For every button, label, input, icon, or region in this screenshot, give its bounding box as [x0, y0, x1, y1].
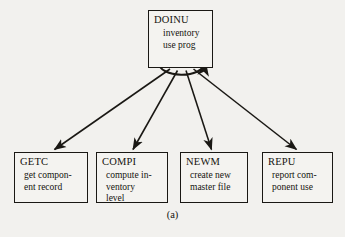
connector-call-compi	[133, 71, 178, 150]
module-description-compi: compute in- ventory level	[97, 168, 167, 205]
module-name-doinu: DOINU	[149, 14, 212, 26]
module-description-repu: report com- ponent use	[263, 168, 332, 193]
connector-call-newm	[186, 71, 212, 150]
module-name-repu: REPU	[263, 156, 332, 168]
module-description-doinu: inventory use prog	[149, 26, 212, 51]
module-name-getc: GETC	[15, 156, 87, 168]
connector-call-getc	[55, 69, 171, 150]
structure-chart-figure: DOINU inventory use prog GETC get compon…	[0, 0, 345, 237]
module-description-getc: get compon- ent record	[15, 168, 87, 193]
module-box-compi[interactable]: COMPI compute in- ventory level	[96, 152, 168, 203]
figure-caption: (a)	[0, 208, 345, 221]
module-box-newm[interactable]: NEWM create new master file	[180, 152, 248, 203]
module-name-newm: NEWM	[181, 156, 247, 168]
module-name-compi: COMPI	[97, 156, 167, 168]
connector-call-repu	[194, 69, 297, 150]
module-box-getc[interactable]: GETC get compon- ent record	[14, 152, 88, 203]
module-box-repu[interactable]: REPU report com- ponent use	[262, 152, 333, 203]
module-box-doinu[interactable]: DOINU inventory use prog	[148, 10, 213, 68]
module-description-newm: create new master file	[181, 168, 247, 193]
